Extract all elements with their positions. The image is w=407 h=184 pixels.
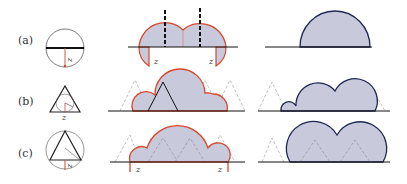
figure-canvas: z z z z <box>0 0 407 184</box>
svg-text:z: z <box>135 165 141 174</box>
icon-circle-a: z <box>46 29 84 67</box>
panel-b-left <box>108 69 245 111</box>
icon-triangle-circle-c: z <box>46 131 84 170</box>
svg-text:z: z <box>153 57 159 66</box>
panel-b-right <box>258 79 390 111</box>
panel-a-right <box>265 11 372 47</box>
icon-triangle-b: z <box>50 86 80 122</box>
svg-text:z: z <box>65 163 74 169</box>
svg-text:z: z <box>208 57 214 66</box>
panel-c-left: z z <box>110 126 245 174</box>
svg-text:z: z <box>65 57 74 63</box>
svg-text:z: z <box>217 165 223 174</box>
panel-c-right <box>258 121 390 162</box>
svg-text:z: z <box>61 113 67 122</box>
panel-a-left: z z <box>128 8 238 66</box>
